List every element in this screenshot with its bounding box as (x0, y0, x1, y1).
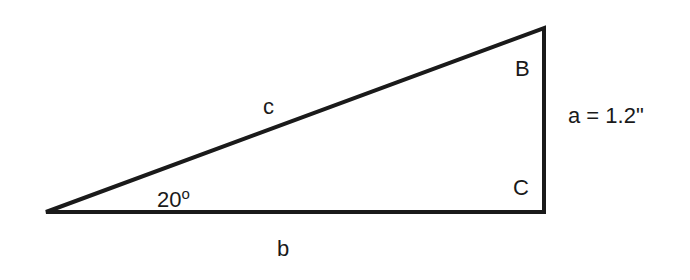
degree-symbol: o (181, 185, 189, 202)
vertex-c-label: C (513, 177, 529, 199)
right-triangle (0, 0, 690, 280)
triangle-outline (46, 28, 544, 212)
base-label: b (277, 238, 289, 260)
hypotenuse-label: c (263, 96, 274, 118)
side-a-label: a = 1.2" (568, 105, 644, 127)
angle-label: 20o (157, 186, 190, 211)
angle-value: 20 (157, 187, 181, 212)
vertex-b-label: B (515, 58, 530, 80)
